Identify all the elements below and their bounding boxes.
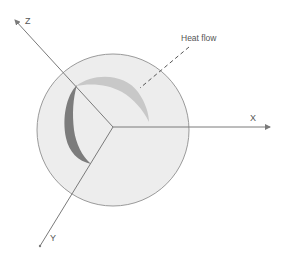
x-axis-label: X xyxy=(250,113,256,123)
heat-flow-diagram: Z X Y Heat flow xyxy=(0,0,281,257)
sphere xyxy=(37,54,189,206)
z-axis-label: Z xyxy=(25,16,31,26)
heat-flow-label: Heat flow xyxy=(181,33,217,43)
y-axis-end-dot xyxy=(39,245,41,247)
y-axis-label: Y xyxy=(50,233,56,243)
